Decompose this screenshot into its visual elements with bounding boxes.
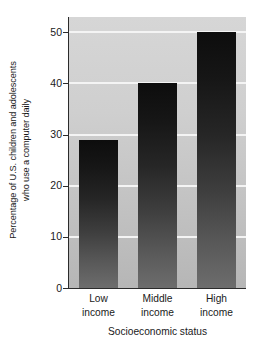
x-axis-title: Socioeconomic status xyxy=(69,326,246,338)
y-tick-label-40: 40 xyxy=(40,78,62,89)
x-axis-category-labels: LowincomeMiddleincomeHighincome xyxy=(69,292,246,326)
y-axis-title-line-1: Percentage of U.S. children and adolesce… xyxy=(7,61,20,239)
category-label-line-1: Low xyxy=(69,292,128,306)
bar-middle-income xyxy=(138,83,177,288)
y-tick-label-30: 30 xyxy=(40,129,62,140)
category-label-low-income: Lowincome xyxy=(69,292,128,319)
y-tick-label-20: 20 xyxy=(40,180,62,191)
y-axis-title-line-2: who use a computer daily xyxy=(20,61,33,239)
y-axis-tick-labels: 01020304050 xyxy=(38,0,62,345)
category-label-middle-income: Middleincome xyxy=(128,292,187,319)
category-label-line-1: Middle xyxy=(128,292,187,306)
bar-low-income xyxy=(79,140,118,288)
y-tick-label-50: 50 xyxy=(40,27,62,38)
y-axis-title: Percentage of U.S. children and adolesce… xyxy=(0,0,40,300)
category-label-line-2: income xyxy=(128,306,187,320)
bar-chart-figure: Percentage of U.S. children and adolesce… xyxy=(0,0,256,345)
plot-area xyxy=(69,17,246,288)
category-label-line-2: income xyxy=(69,306,128,320)
y-tick-label-0: 0 xyxy=(40,283,62,294)
bar-high-income xyxy=(197,32,236,288)
category-label-high-income: Highincome xyxy=(187,292,246,319)
x-axis-line xyxy=(68,288,246,289)
y-axis-title-text: Percentage of U.S. children and adolesce… xyxy=(7,61,33,239)
category-label-line-2: income xyxy=(187,306,246,320)
category-label-line-1: High xyxy=(187,292,246,306)
y-tick-label-10: 10 xyxy=(40,231,62,242)
